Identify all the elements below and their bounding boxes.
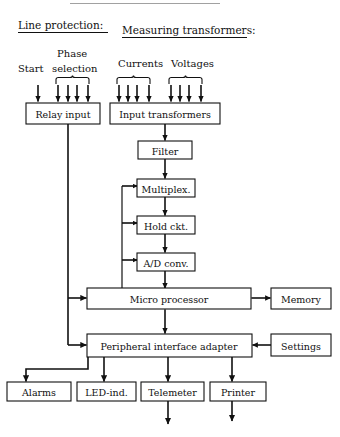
block-printer-label: Printer: [221, 387, 256, 398]
block-alarms-label: Alarms: [21, 387, 56, 398]
block-peripheral-interface-adapter[interactable]: Peripheral interface adapter: [87, 334, 252, 357]
block-relay-input[interactable]: Relay input: [26, 103, 100, 124]
block-settings[interactable]: Settings: [271, 334, 331, 356]
block-multiplexer[interactable]: Multiplex.: [137, 179, 195, 197]
source-label-currents: Currents: [118, 58, 163, 69]
link-micro-processor-control-rail: [122, 186, 138, 288]
link-pia-to-alarms: [26, 357, 88, 382]
block-ad-converter[interactable]: A/D conv.: [137, 253, 195, 271]
block-telemeter-label: Telemeter: [148, 387, 197, 398]
brace-currents: [117, 76, 150, 85]
input-arrows-voltages: [171, 85, 201, 102]
block-memory[interactable]: Memory: [271, 288, 331, 309]
block-filter[interactable]: Filter: [138, 141, 192, 159]
brace-phase-selection: [56, 76, 89, 85]
link-relay-input-rail: [68, 124, 87, 345]
block-peripheral-interface-adapter-label: Peripheral interface adapter: [100, 341, 237, 352]
source-label-voltages: Voltages: [170, 58, 214, 69]
block-ad-converter-label: A/D conv.: [142, 258, 188, 269]
heading-line-protection: Line protection:: [18, 19, 103, 31]
block-settings-label: Settings: [281, 341, 321, 352]
brace-voltages: [169, 76, 202, 85]
block-printer[interactable]: Printer: [210, 382, 266, 401]
block-led-indicator-label: LED-ind.: [85, 387, 128, 398]
heading-measuring-transformers: Measuring transformers:: [122, 24, 256, 36]
block-multiplexer-label: Multiplex.: [142, 184, 191, 195]
source-label-phase-selection: selection: [52, 63, 98, 74]
block-alarms[interactable]: Alarms: [7, 382, 71, 401]
block-micro-processor[interactable]: Micro processor: [87, 288, 251, 309]
block-hold-circuit-label: Hold ckt.: [144, 221, 188, 232]
block-input-transformers-label: Input transformers: [119, 109, 211, 120]
block-micro-processor-label: Micro processor: [130, 294, 209, 305]
block-hold-circuit[interactable]: Hold ckt.: [137, 216, 195, 234]
source-label-start: Start: [18, 63, 44, 74]
block-input-transformers[interactable]: Input transformers: [110, 103, 220, 124]
block-memory-label: Memory: [281, 294, 322, 305]
block-led-indicator[interactable]: LED-ind.: [77, 382, 136, 401]
input-arrows-phase-selection: [58, 85, 88, 102]
block-diagram: Line protection: Measuring transformers:…: [0, 0, 340, 437]
input-arrows-currents: [119, 85, 149, 102]
block-telemeter[interactable]: Telemeter: [141, 382, 204, 401]
block-filter-label: Filter: [152, 146, 179, 157]
block-relay-input-label: Relay input: [35, 109, 90, 120]
source-label-phase: Phase: [57, 48, 87, 59]
